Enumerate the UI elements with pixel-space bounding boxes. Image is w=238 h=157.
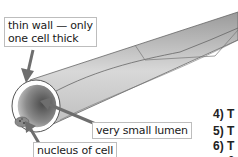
nucleus-label: nucleus of cell xyxy=(33,142,117,157)
question-4: 4) T xyxy=(213,107,234,121)
wall-label-line2: one cell thick xyxy=(8,32,93,45)
question-6: 6) T xyxy=(213,139,234,153)
question-5-text: T xyxy=(227,124,234,138)
question-6-continuation-text: c xyxy=(228,152,234,157)
question-4-number: 4) xyxy=(213,107,224,121)
question-5: 5) T xyxy=(213,124,234,138)
question-6-number: 6) xyxy=(213,139,224,153)
question-4-text: T xyxy=(227,107,234,121)
wall-arrow xyxy=(21,50,34,83)
question-6-continuation: c xyxy=(228,152,234,157)
nucleus-label-text: nucleus of cell xyxy=(37,144,113,157)
wall-label-line1: thin wall — only xyxy=(8,19,93,32)
lumen-label-text: very small lumen xyxy=(96,124,188,137)
question-6-text: T xyxy=(227,139,234,153)
wall-label: thin wall — only one cell thick xyxy=(4,17,97,47)
lumen-label: very small lumen xyxy=(92,122,192,139)
question-5-number: 5) xyxy=(213,124,224,138)
